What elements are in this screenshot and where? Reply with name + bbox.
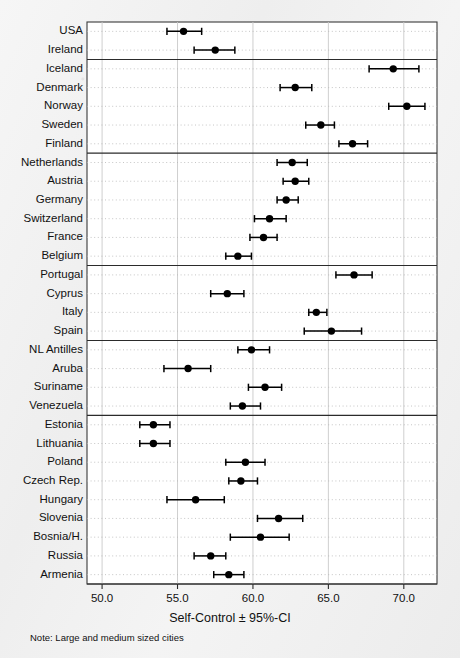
y-axis-category-label: Slovenia <box>39 512 83 523</box>
y-axis-category-label: Czech Rep. <box>23 475 83 486</box>
y-axis-category-label: Cyprus <box>47 288 83 299</box>
point-marker <box>390 65 397 72</box>
point-marker <box>150 421 157 428</box>
figure-note: Note: Large and medium sized cities <box>30 632 184 643</box>
point-marker <box>184 365 191 372</box>
point-marker <box>242 459 249 466</box>
y-axis-category-label: NL Antilles <box>29 344 83 355</box>
y-axis-category-label: Finland <box>45 138 83 149</box>
point-marker <box>317 121 324 128</box>
y-axis-category-label: Switzerland <box>24 213 83 224</box>
x-axis-title: Self-Control ± 95%-CI <box>0 611 460 625</box>
y-axis-category-label: Russia <box>48 550 83 561</box>
y-axis-category-label: Suriname <box>34 381 83 392</box>
x-axis-tick-label: 65.0 <box>298 592 358 604</box>
point-marker <box>282 196 289 203</box>
y-axis-category-label: Lithuania <box>36 438 83 449</box>
y-axis-category-label: Netherlands <box>21 157 83 168</box>
point-marker <box>261 384 268 391</box>
point-marker <box>291 178 298 185</box>
point-marker <box>350 271 357 278</box>
point-marker <box>192 496 199 503</box>
y-axis-category-label: Belgium <box>41 250 83 261</box>
forest-plot-figure: USAIrelandIcelandDenmarkNorwaySwedenFinl… <box>0 0 460 658</box>
point-marker <box>212 46 219 53</box>
point-marker <box>225 571 232 578</box>
point-marker <box>328 327 335 334</box>
point-marker <box>349 140 356 147</box>
plot-area: USAIrelandIcelandDenmarkNorwaySwedenFinl… <box>0 0 460 658</box>
y-axis-category-label: Venezuela <box>29 400 83 411</box>
point-marker <box>260 234 267 241</box>
point-marker <box>275 515 282 522</box>
x-axis-tick-label: 70.0 <box>374 592 434 604</box>
y-axis-category-label: Ireland <box>48 44 83 55</box>
y-axis-category-label: Iceland <box>46 63 83 74</box>
point-marker <box>257 533 264 540</box>
y-axis-category-label: Denmark <box>36 82 83 93</box>
y-axis-category-label: Aruba <box>52 363 83 374</box>
point-marker <box>288 159 295 166</box>
y-axis-category-label: Sweden <box>41 119 83 130</box>
y-axis-category-label: Estonia <box>45 419 83 430</box>
y-axis-category-label: Germany <box>36 194 83 205</box>
point-marker <box>180 28 187 35</box>
y-axis-category-label: Hungary <box>40 494 83 505</box>
point-marker <box>150 440 157 447</box>
y-axis-category-label: France <box>47 231 83 242</box>
point-marker <box>266 215 273 222</box>
point-marker <box>403 103 410 110</box>
point-marker <box>239 402 246 409</box>
y-axis-category-label: Austria <box>47 175 83 186</box>
y-axis-category-label: Bosnia/H. <box>33 531 83 542</box>
y-axis-category-label: Norway <box>44 100 83 111</box>
y-axis-category-label: Armenia <box>40 569 83 580</box>
y-axis-category-label: Spain <box>54 325 83 336</box>
x-axis-tick-label: 50.0 <box>72 592 132 604</box>
y-axis-category-label: Italy <box>62 306 83 317</box>
x-axis-tick-label: 60.0 <box>223 592 283 604</box>
x-axis-tick-label: 55.0 <box>148 592 208 604</box>
point-marker <box>248 346 255 353</box>
plot-frame <box>87 22 437 584</box>
point-marker <box>291 84 298 91</box>
point-marker <box>224 290 231 297</box>
point-marker <box>207 552 214 559</box>
point-marker <box>234 252 241 259</box>
y-axis-category-label: USA <box>59 25 83 36</box>
y-axis-category-label: Portugal <box>40 269 83 280</box>
point-marker <box>237 477 244 484</box>
point-marker <box>313 309 320 316</box>
y-axis-category-label: Poland <box>47 456 83 467</box>
